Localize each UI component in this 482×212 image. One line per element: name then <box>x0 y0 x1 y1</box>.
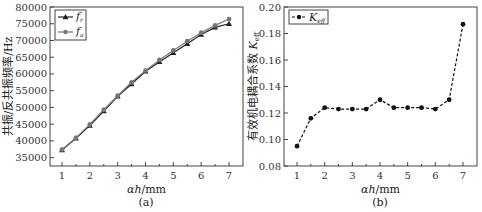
data-point <box>74 135 79 140</box>
x-tick-label: 4 <box>377 170 383 181</box>
x-tick-label: 3 <box>114 170 120 181</box>
data-point <box>295 144 300 149</box>
x-tick-label: 5 <box>404 170 410 181</box>
plot-frame <box>284 7 477 166</box>
y-tick-label: 75000 <box>15 18 47 29</box>
y-tick-label: 50000 <box>15 102 47 113</box>
data-point <box>101 107 106 112</box>
data-point <box>461 22 466 27</box>
data-point <box>336 107 341 112</box>
panel-b: 12345670.080.100.120.140.160.180.20αh/mm… <box>246 2 477 210</box>
y-tick-label: 35000 <box>15 152 47 163</box>
data-point <box>143 68 148 73</box>
x-tick-label: 4 <box>142 170 148 181</box>
data-point <box>185 39 190 44</box>
series-line-f_r <box>62 24 229 150</box>
y-tick-label: 0.14 <box>259 81 281 92</box>
data-point <box>199 30 204 35</box>
data-point <box>405 105 410 110</box>
data-point <box>419 105 424 110</box>
data-point <box>157 57 162 62</box>
series-line-K_eff <box>297 24 463 146</box>
x-tick-label: 6 <box>432 170 438 181</box>
x-tick-label: 1 <box>59 170 65 181</box>
y-tick-label: 60000 <box>15 68 47 79</box>
y-tick-label: 70000 <box>15 35 47 46</box>
y-tick-label: 0.18 <box>259 28 281 39</box>
data-point <box>129 80 134 85</box>
data-point <box>391 105 396 110</box>
data-point <box>322 105 327 110</box>
data-point <box>364 107 369 112</box>
data-point <box>171 48 176 53</box>
x-tick-label: 1 <box>294 170 300 181</box>
x-tick-label: 7 <box>460 170 466 181</box>
panel-caption: (a) <box>138 196 153 209</box>
data-point <box>350 107 355 112</box>
data-point <box>308 116 313 121</box>
data-point <box>60 147 65 152</box>
y-tick-label: 65000 <box>15 52 47 63</box>
y-tick-label: 40000 <box>15 135 47 146</box>
data-point <box>433 107 438 112</box>
x-tick-label: 2 <box>321 170 327 181</box>
series-line-f_a <box>62 19 229 150</box>
x-tick-label: 3 <box>349 170 355 181</box>
y-tick-label: 45000 <box>15 119 47 130</box>
x-tick-label: 2 <box>87 170 93 181</box>
y-tick-label: 0.12 <box>259 108 281 119</box>
y-tick-label: 80000 <box>15 2 47 13</box>
y-tick-label: 0.16 <box>259 55 281 66</box>
figure: 1234567350004000045000500005500060000650… <box>0 0 482 212</box>
data-point <box>115 93 120 98</box>
y-axis-label: 共振/反共振频率/Hz <box>1 36 15 136</box>
y-tick-label: 0.08 <box>259 161 281 172</box>
y-axis-label: 有效机电耦合系数 Keff <box>246 31 261 141</box>
data-point <box>226 21 232 26</box>
panel-a: 1234567350004000045000500005500060000650… <box>1 2 243 210</box>
x-axis-label: αh/mm <box>127 183 167 196</box>
x-tick-label: 7 <box>226 170 232 181</box>
data-point <box>447 97 452 102</box>
x-tick-label: 5 <box>170 170 176 181</box>
data-point <box>213 23 218 28</box>
y-tick-label: 0.20 <box>259 2 281 13</box>
y-tick-label: 0.10 <box>259 134 281 145</box>
x-tick-label: 6 <box>198 170 204 181</box>
data-point <box>87 122 92 127</box>
x-axis-label: αh/mm <box>361 183 401 196</box>
panel-caption: (b) <box>372 196 388 209</box>
y-tick-label: 55000 <box>15 85 47 96</box>
data-point <box>378 97 383 102</box>
data-point <box>227 17 232 22</box>
